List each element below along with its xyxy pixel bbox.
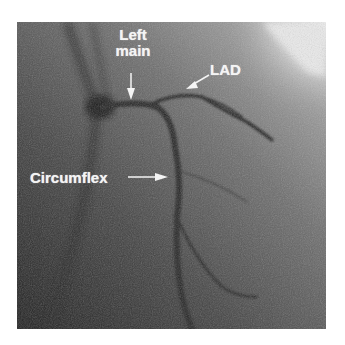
lad-label: LAD bbox=[210, 62, 241, 78]
left-main-label-line1: Left bbox=[113, 27, 153, 43]
angiogram-image: Left main LAD Circumflex bbox=[17, 22, 326, 329]
left-main-label-line2: main bbox=[113, 43, 153, 59]
left-main-label: Left main bbox=[113, 27, 153, 59]
circumflex-label: Circumflex bbox=[30, 170, 108, 186]
